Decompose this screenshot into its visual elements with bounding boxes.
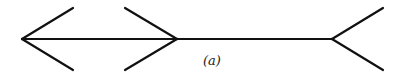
right-fins (332, 8, 383, 70)
figure-label: (a) (203, 53, 221, 68)
muller-lyer-figure: (a) (0, 0, 404, 81)
diagram-svg (0, 0, 404, 81)
